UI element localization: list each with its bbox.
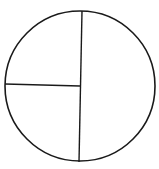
fraction-circle-diagram (0, 0, 159, 169)
